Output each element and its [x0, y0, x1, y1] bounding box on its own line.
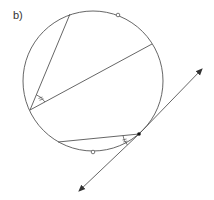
open-point-top: [116, 13, 120, 17]
tangent-line-lower: [79, 134, 139, 191]
inscribed-angle-arc: [36, 95, 45, 102]
circle-theorem-diagram: [0, 0, 214, 200]
circle: [23, 11, 163, 151]
angle-tick: [123, 139, 127, 140]
open-point-bottom: [91, 150, 95, 154]
chord-long: [30, 44, 152, 110]
tangent-point: [137, 132, 141, 136]
tangent-line: [139, 69, 202, 134]
chord-top-left: [30, 14, 70, 110]
